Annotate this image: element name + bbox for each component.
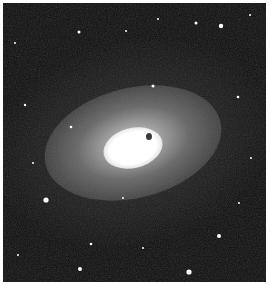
foreground-stars <box>3 3 266 282</box>
galaxy-photo <box>3 3 266 282</box>
